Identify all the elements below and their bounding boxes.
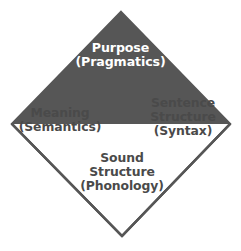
diamond-shape-svg [0,0,241,251]
diamond-diagram: Purpose (Pragmatics) Meaning (Semantics)… [0,0,241,251]
quadrant-top-shape [12,12,230,124]
